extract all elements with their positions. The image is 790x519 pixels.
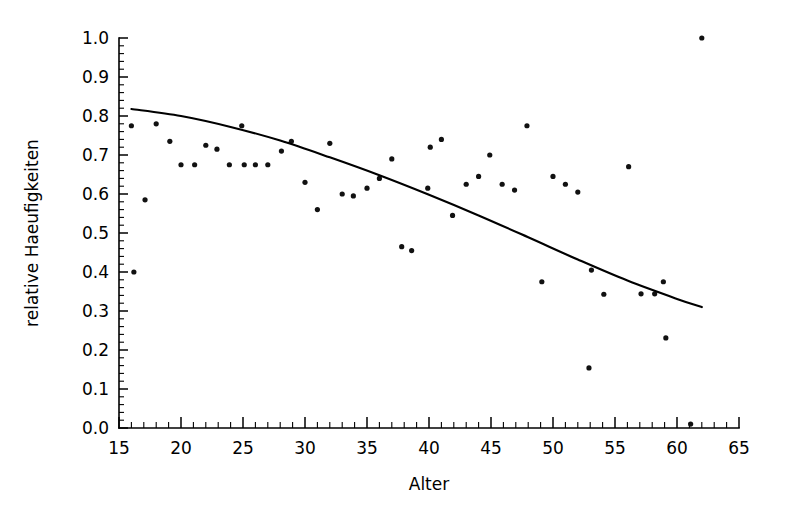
x-axis-title: Alter bbox=[409, 474, 449, 494]
x-tick-label: 30 bbox=[294, 438, 316, 458]
data-point bbox=[167, 139, 172, 144]
data-point bbox=[476, 174, 481, 179]
y-tick-label: 0.4 bbox=[82, 262, 109, 282]
data-point bbox=[487, 152, 492, 157]
data-point bbox=[661, 279, 666, 284]
data-point bbox=[131, 269, 136, 274]
data-point bbox=[239, 123, 244, 128]
data-point bbox=[699, 35, 704, 40]
data-point bbox=[178, 162, 183, 167]
data-point bbox=[638, 291, 643, 296]
data-point bbox=[439, 137, 444, 142]
data-point bbox=[129, 123, 134, 128]
x-tick-label: 60 bbox=[666, 438, 688, 458]
x-tick-label: 40 bbox=[418, 438, 440, 458]
y-tick-label: 0.0 bbox=[82, 418, 109, 438]
data-point bbox=[626, 164, 631, 169]
data-point bbox=[409, 248, 414, 253]
data-point bbox=[464, 182, 469, 187]
y-tick-label: 1.0 bbox=[82, 28, 109, 48]
x-tick-label: 50 bbox=[542, 438, 564, 458]
data-point bbox=[586, 365, 591, 370]
y-axis-title: relative Haeufigkeiten bbox=[22, 139, 42, 327]
data-point bbox=[327, 141, 332, 146]
data-point bbox=[524, 123, 529, 128]
x-tick-label: 45 bbox=[480, 438, 502, 458]
data-point bbox=[192, 162, 197, 167]
x-tick-label: 65 bbox=[728, 438, 750, 458]
data-point bbox=[399, 244, 404, 249]
data-point bbox=[242, 162, 247, 167]
y-tick-label: 0.2 bbox=[82, 340, 109, 360]
x-tick-label: 25 bbox=[232, 438, 254, 458]
y-tick-label: 0.1 bbox=[82, 379, 109, 399]
y-tick-label: 0.8 bbox=[82, 106, 109, 126]
data-point bbox=[601, 292, 606, 297]
y-tick-label: 0.7 bbox=[82, 145, 109, 165]
data-point bbox=[154, 121, 159, 126]
chart-canvas: 0.00.10.20.30.40.50.60.70.80.91.0 152025… bbox=[0, 0, 790, 519]
data-point bbox=[315, 207, 320, 212]
data-point bbox=[589, 267, 594, 272]
data-point bbox=[663, 335, 668, 340]
data-point bbox=[279, 149, 284, 154]
data-point bbox=[214, 147, 219, 152]
x-tick-label: 55 bbox=[604, 438, 626, 458]
x-tick-label: 20 bbox=[170, 438, 192, 458]
data-point bbox=[389, 156, 394, 161]
data-point bbox=[550, 174, 555, 179]
data-point bbox=[142, 197, 147, 202]
scatter-plot-figure: 0.00.10.20.30.40.50.60.70.80.91.0 152025… bbox=[0, 0, 790, 519]
data-point bbox=[302, 180, 307, 185]
data-point bbox=[351, 193, 356, 198]
y-tick-label: 0.9 bbox=[82, 67, 109, 87]
data-point bbox=[364, 186, 369, 191]
x-tick-label: 15 bbox=[108, 438, 130, 458]
data-point bbox=[227, 162, 232, 167]
data-point bbox=[688, 422, 693, 427]
data-point bbox=[425, 186, 430, 191]
data-point bbox=[512, 188, 517, 193]
data-point bbox=[539, 279, 544, 284]
data-point bbox=[203, 143, 208, 148]
data-point bbox=[253, 162, 258, 167]
data-point bbox=[428, 145, 433, 150]
y-tick-label: 0.6 bbox=[82, 184, 109, 204]
data-point bbox=[340, 191, 345, 196]
data-point bbox=[450, 213, 455, 218]
data-point bbox=[563, 182, 568, 187]
y-tick-label: 0.5 bbox=[82, 223, 109, 243]
data-point bbox=[265, 162, 270, 167]
data-point bbox=[575, 189, 580, 194]
y-tick-label: 0.3 bbox=[82, 301, 109, 321]
data-point bbox=[500, 182, 505, 187]
x-tick-label: 35 bbox=[356, 438, 378, 458]
